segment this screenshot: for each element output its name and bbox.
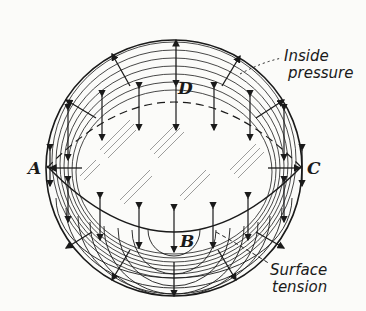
inside-pressure-line2: pressure [288, 65, 353, 82]
surface-tension-label: Surface tension [270, 262, 327, 296]
point-label-c: C [307, 160, 321, 177]
tension-arrows [50, 86, 302, 252]
glare-hatching [80, 120, 264, 204]
point-label-a: A [28, 160, 41, 177]
inside-pressure-line1: Inside [284, 48, 353, 65]
bubble-diagram: D A C B Inside pressure Surface tension [0, 0, 366, 311]
point-label-b: B [180, 233, 194, 250]
surface-tension-line2: tension [272, 279, 327, 296]
surface-tension-line1: Surface [270, 262, 327, 279]
inside-pressure-leader [240, 58, 282, 74]
inside-pressure-label: Inside pressure [284, 48, 353, 82]
point-label-d: D [178, 80, 193, 97]
